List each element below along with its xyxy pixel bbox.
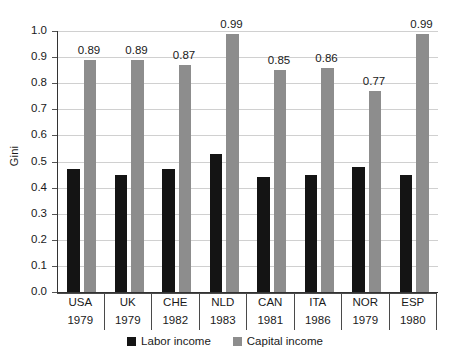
category-cell-can: CAN1981	[247, 293, 295, 330]
bar-can-capital	[274, 70, 287, 292]
chart-legend: Labor incomeCapital income	[0, 335, 450, 347]
category-name: NOR	[342, 296, 389, 308]
y-tick-label: 0.7	[1, 103, 47, 114]
bar-value-label: 0.86	[310, 52, 344, 64]
bar-value-label: 0.87	[167, 49, 201, 61]
y-tick-label: 0.8	[1, 77, 47, 88]
y-tick-label: 0.6	[1, 129, 47, 140]
category-name: ITA	[295, 296, 342, 308]
legend-item-capital-income: Capital income	[233, 335, 323, 347]
category-name: USA	[57, 296, 104, 308]
bar-can-labor	[257, 177, 270, 292]
bar-nld-capital	[226, 34, 239, 292]
category-name: UK	[105, 296, 152, 308]
bar-value-label: 0.99	[215, 18, 249, 30]
category-year: 1982	[152, 314, 199, 326]
plot-area	[57, 31, 438, 293]
category-year: 1986	[295, 314, 342, 326]
y-tick-label: 0.3	[1, 208, 47, 219]
category-cell-che: CHE1982	[152, 293, 200, 330]
category-year: 1981	[247, 314, 294, 326]
bar-value-label: 0.89	[72, 44, 106, 56]
bar-value-label: 0.85	[262, 54, 296, 66]
category-axis: USA1979UK1979CHE1982NLD1983CAN1981ITA198…	[57, 293, 437, 330]
y-tick-label: 0.2	[1, 234, 47, 245]
category-name: CHE	[152, 296, 199, 308]
legend-swatch-icon	[233, 337, 242, 346]
bar-nld-labor	[210, 154, 223, 292]
category-year: 1980	[390, 314, 437, 326]
category-cell-usa: USA1979	[57, 293, 105, 330]
y-tick-label: 0.5	[1, 156, 47, 167]
bar-che-labor	[162, 169, 175, 292]
category-cell-ita: ITA1986	[295, 293, 343, 330]
category-cell-nor: NOR1979	[342, 293, 390, 330]
bars-layer	[58, 31, 438, 292]
bar-che-capital	[179, 65, 192, 292]
category-name: ESP	[390, 296, 437, 308]
category-cell-uk: UK1979	[105, 293, 153, 330]
legend-item-labor-income: Labor income	[127, 335, 211, 347]
y-axis-ticks: 0.00.10.20.30.40.50.60.70.80.91.0	[0, 0, 52, 360]
bar-ita-capital	[321, 68, 334, 292]
bar-value-label: 0.99	[405, 18, 439, 30]
category-year: 1983	[200, 314, 247, 326]
category-year: 1979	[57, 314, 104, 326]
category-name: CAN	[247, 296, 294, 308]
bar-ita-labor	[305, 175, 318, 292]
bar-value-label: 0.77	[357, 75, 391, 87]
legend-label: Capital income	[247, 335, 323, 347]
bar-usa-capital	[84, 60, 97, 292]
y-tick-label: 0.0	[1, 286, 47, 297]
category-year: 1979	[342, 314, 389, 326]
legend-label: Labor income	[141, 335, 211, 347]
category-year: 1979	[105, 314, 152, 326]
bar-uk-labor	[115, 175, 128, 292]
gini-bar-chart: Gini 0.00.10.20.30.40.50.60.70.80.91.0 0…	[0, 0, 450, 360]
y-tick-label: 0.9	[1, 51, 47, 62]
bar-usa-labor	[67, 169, 80, 292]
legend-swatch-icon	[127, 337, 136, 346]
y-tick-label: 0.1	[1, 260, 47, 271]
bar-esp-capital	[416, 34, 429, 292]
y-tick-label: 0.4	[1, 182, 47, 193]
category-cell-nld: NLD1983	[200, 293, 248, 330]
category-name: NLD	[200, 296, 247, 308]
bar-nor-capital	[369, 91, 382, 292]
bar-esp-labor	[400, 175, 413, 292]
bar-nor-labor	[352, 167, 365, 292]
y-tick-label: 1.0	[1, 25, 47, 36]
category-cell-esp: ESP1980	[390, 293, 438, 330]
bar-uk-capital	[131, 60, 144, 292]
bar-value-label: 0.89	[120, 44, 154, 56]
